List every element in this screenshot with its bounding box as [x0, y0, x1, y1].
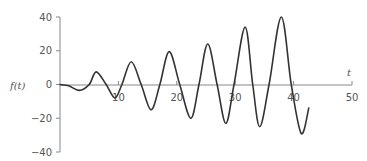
y-axis-label: f(t) — [9, 80, 26, 91]
line-chart: 40200−20−40 1020304050 f(t) t — [0, 0, 367, 161]
y-tick-label: 40 — [39, 12, 52, 23]
y-tick-label: −40 — [31, 147, 52, 158]
x-tick-label: 50 — [346, 92, 359, 103]
y-tick-label: 0 — [46, 79, 52, 90]
x-tick-label: 20 — [170, 92, 183, 103]
x-axis-label: t — [347, 67, 352, 78]
y-tick-label: 20 — [39, 45, 52, 56]
y-axis: 40200−20−40 — [31, 12, 60, 158]
series-line-f-t — [60, 17, 309, 134]
y-tick-label: −20 — [31, 113, 52, 124]
x-axis: 1020304050 — [60, 81, 358, 103]
